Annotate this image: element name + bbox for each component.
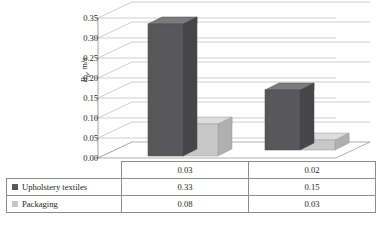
table-cell: 0.03 <box>122 162 249 179</box>
legend-item-packaging[interactable]: Packaging <box>7 196 122 213</box>
depth-line-0.15 <box>98 82 132 98</box>
table-cell: 0.08 <box>122 196 249 213</box>
y-axis-label-base: B <box>79 77 89 82</box>
legend-item-upholstery-textiles[interactable]: Upholstery textiles <box>7 179 122 196</box>
data-table: 0.03 0.02 Upholstery textiles 0.33 0.15 … <box>6 161 376 213</box>
legend-swatch-icon <box>12 201 18 207</box>
y-axis-label-unit: , m/s <box>79 57 89 74</box>
depth-line-0.30 <box>98 22 132 38</box>
y-axis-label: Bp, m/s <box>79 42 91 98</box>
depth-line-0.25 <box>98 42 132 58</box>
y-axis-label-sub: p <box>84 74 91 77</box>
bar-upholstery-group1 <box>148 17 197 156</box>
table-row: Packaging 0.08 0.03 <box>7 196 376 213</box>
table-cell: 0.33 <box>122 179 249 196</box>
legend-label: Packaging <box>22 199 58 209</box>
table-cell: 0.03 <box>249 196 376 213</box>
bar-upholstery-group2 <box>265 83 314 150</box>
depth-line-0.35 <box>98 2 132 18</box>
depth-lines <box>98 2 132 158</box>
y-tick-label: 0.10 <box>72 114 98 123</box>
depth-line-0.20 <box>98 62 132 78</box>
y-tick-label: 0.35 <box>72 14 98 23</box>
table-row: Upholstery textiles 0.33 0.15 <box>7 179 376 196</box>
depth-line-0.05 <box>98 122 132 138</box>
y-tick-label: 0.05 <box>72 134 98 143</box>
legend-swatch-icon <box>12 184 18 190</box>
legend-label: Upholstery textiles <box>22 182 87 192</box>
table-cell: 0.15 <box>249 179 376 196</box>
chart-figure: 0.35 0.30 0.25 0.20 0.15 0.10 0.05 0.00 … <box>0 0 382 225</box>
table-row: 0.03 0.02 <box>7 162 376 179</box>
depth-line-0.10 <box>98 102 132 118</box>
y-axis-tick-labels: 0.35 0.30 0.25 0.20 0.15 0.10 0.05 0.00 … <box>70 0 98 170</box>
table-cell: 0.02 <box>249 162 376 179</box>
table-legend-cell-empty <box>7 162 122 179</box>
